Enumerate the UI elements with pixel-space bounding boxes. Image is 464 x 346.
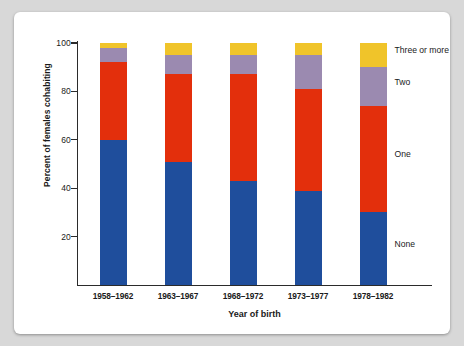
bar-segment[interactable] [360, 43, 387, 67]
x-axis-line [77, 285, 432, 286]
bar-segment[interactable] [295, 43, 322, 55]
y-axis-tick [71, 236, 77, 237]
bar-stack[interactable] [100, 43, 127, 285]
y-axis-line [77, 41, 78, 286]
y-axis-tick-label: 80 [41, 86, 71, 96]
chart-figure: Percent of females cohabiting Year of bi… [14, 12, 450, 334]
x-axis-tick-label: 1968–1972 [212, 291, 274, 301]
bar-segment[interactable] [230, 43, 257, 55]
x-axis-tick-label: 1973–1977 [277, 291, 339, 301]
bar-segment[interactable] [165, 43, 192, 55]
y-axis-tick [71, 42, 77, 43]
x-axis-title: Year of birth [77, 309, 432, 319]
bar-segment[interactable] [230, 55, 257, 74]
bar-stack[interactable] [360, 43, 387, 285]
bar-segment[interactable] [360, 212, 387, 285]
legend-item-two: Two [395, 78, 451, 87]
bar-stack[interactable] [230, 43, 257, 285]
bar-segment[interactable] [230, 74, 257, 180]
bar-segment[interactable] [165, 74, 192, 161]
legend-item-one: One [395, 150, 451, 159]
y-axis-tick-label: 60 [41, 135, 71, 145]
legend-item-none: None [395, 240, 451, 249]
bar-segment[interactable] [295, 55, 322, 89]
bar-segment[interactable] [295, 191, 322, 285]
x-axis-tick-label: 1978–1982 [342, 291, 404, 301]
x-axis-tick-label: 1963–1967 [147, 291, 209, 301]
bar-stack[interactable] [295, 43, 322, 285]
bar-segment[interactable] [100, 62, 127, 139]
bar-segment[interactable] [165, 162, 192, 285]
bar-segment[interactable] [230, 181, 257, 285]
y-axis-tick-label: 20 [41, 232, 71, 242]
plot-area: Percent of females cohabiting Year of bi… [14, 12, 450, 334]
legend-item-three-or-more: Three or more [395, 46, 451, 55]
bar-segment[interactable] [360, 106, 387, 212]
bar-segment[interactable] [360, 67, 387, 106]
y-axis-tick-label: 100 [41, 38, 71, 48]
y-axis-tick-label: 40 [41, 183, 71, 193]
x-axis-tick-label: 1958–1962 [82, 291, 144, 301]
bar-segment[interactable] [100, 140, 127, 285]
bar-segment[interactable] [100, 48, 127, 63]
y-axis-tick [71, 91, 77, 92]
bar-stack[interactable] [165, 43, 192, 285]
bar-segment[interactable] [295, 89, 322, 191]
y-axis-tick [71, 139, 77, 140]
y-axis-tick [71, 188, 77, 189]
bar-segment[interactable] [165, 55, 192, 74]
